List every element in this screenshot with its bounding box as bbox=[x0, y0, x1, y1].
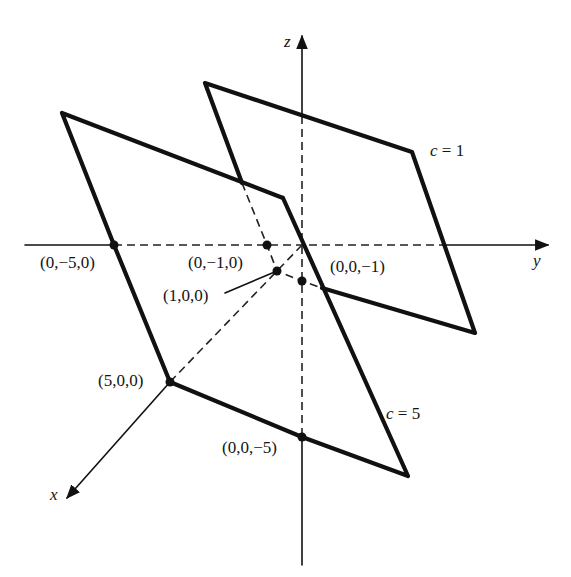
x-axis-label: x bbox=[49, 485, 58, 504]
plane-c5-label-text: = 5 bbox=[394, 404, 421, 423]
level-surfaces-figure: z y x c = 1 c = 5 (0,−5,0) (0,−1,0) (1,0… bbox=[0, 0, 571, 577]
label-0-neg5-0: (0,−5,0) bbox=[40, 253, 95, 272]
leader-line-1-0-0 bbox=[225, 271, 277, 293]
label-0-0-neg5: (0,0,−5) bbox=[222, 438, 277, 457]
plane-c1-label: c = 1 bbox=[430, 141, 464, 160]
y-axis-label: y bbox=[531, 251, 541, 270]
point-0-0-neg1 bbox=[298, 277, 307, 286]
z-axis-label: z bbox=[283, 32, 291, 51]
plane-c1 bbox=[205, 83, 475, 333]
point-0-neg1-0 bbox=[263, 241, 272, 250]
plane-c1-label-text: = 1 bbox=[438, 141, 465, 160]
point-0-neg5-0 bbox=[110, 241, 119, 250]
label-5-0-0: (5,0,0) bbox=[98, 371, 143, 390]
plane-c5-label: c = 5 bbox=[386, 404, 420, 423]
point-0-0-neg5 bbox=[298, 433, 307, 442]
label-1-0-0: (1,0,0) bbox=[163, 286, 208, 305]
label-0-0-neg1: (0,0,−1) bbox=[330, 257, 385, 276]
point-5-0-0 bbox=[166, 378, 175, 387]
label-0-neg1-0: (0,−1,0) bbox=[188, 253, 243, 272]
